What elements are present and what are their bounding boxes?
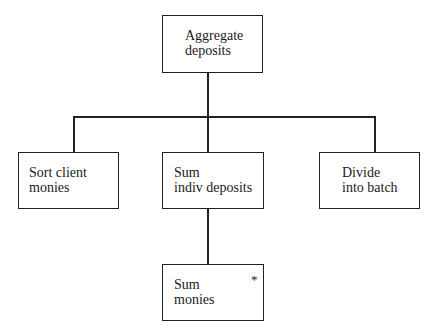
node-label-line2: monies: [174, 292, 214, 307]
node-divide-into-batch: Divide into batch: [319, 152, 420, 209]
node-sum-monies: Sum monies *: [162, 264, 264, 321]
connector-to-divide-into-batch: [374, 116, 376, 153]
connector-to-sort-client-monies: [73, 116, 75, 153]
node-label-line1: Divide: [342, 165, 380, 180]
connector-to-sum-indiv-deposits: [207, 116, 209, 153]
node-label-line2: monies: [29, 180, 69, 195]
node-label-line2: into batch: [342, 180, 398, 195]
connector-horizontal-bar: [73, 116, 375, 118]
iteration-marker: *: [251, 272, 258, 288]
node-label-line1: Sum: [174, 165, 200, 180]
node-aggregate-deposits: Aggregate deposits: [162, 15, 263, 73]
node-sort-client-monies: Sort client monies: [18, 152, 119, 209]
connector-root-down: [207, 72, 209, 117]
node-sum-indiv-deposits: Sum indiv deposits: [162, 152, 264, 209]
connector-to-sum-monies: [207, 208, 209, 265]
node-label-line1: Sort client: [29, 165, 87, 180]
node-label-line1: Aggregate: [185, 28, 243, 43]
node-label-line2: indiv deposits: [174, 180, 252, 195]
node-label-line2: deposits: [185, 43, 231, 58]
node-label-line1: Sum: [174, 277, 200, 292]
